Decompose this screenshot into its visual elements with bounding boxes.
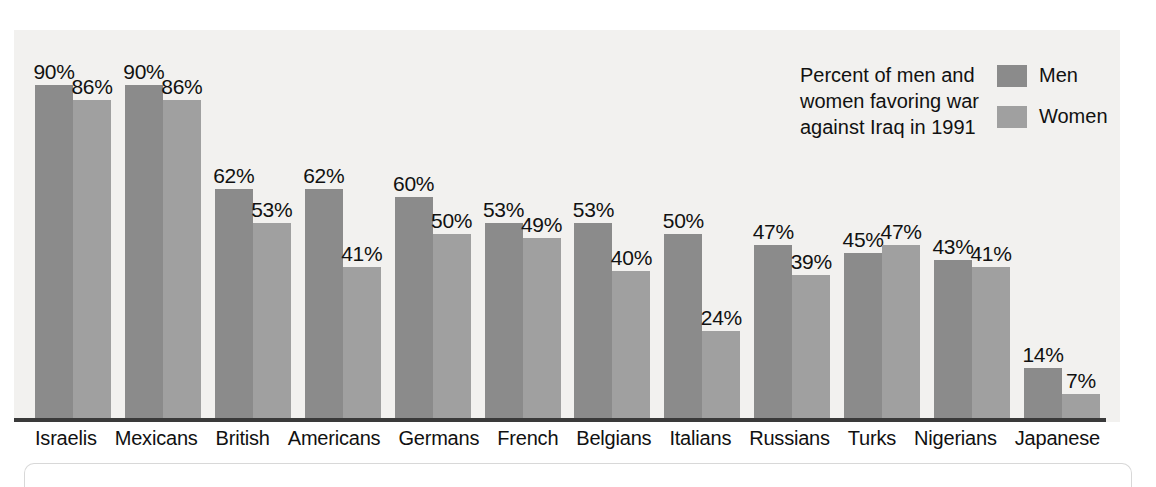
x-axis-label: Americans	[288, 427, 381, 457]
bar-rect-men	[35, 85, 73, 420]
legend-caption: Percent of men and women favoring war ag…	[800, 62, 979, 140]
bar-value-label: 53%	[573, 198, 614, 222]
bar-value-label: 53%	[483, 198, 524, 222]
bar-men[interactable]: 90%	[35, 30, 73, 420]
legend-label-men: Men	[1039, 64, 1078, 87]
bar-men[interactable]: 53%	[485, 30, 523, 420]
bar-value-label: 7%	[1066, 369, 1096, 393]
x-axis-label: Germans	[398, 427, 479, 457]
bar-value-label: 50%	[663, 209, 704, 233]
bar-value-label: 41%	[970, 242, 1011, 266]
bar-value-label: 41%	[341, 242, 382, 266]
bar-rect-men	[664, 234, 702, 420]
bar-rect-women	[253, 223, 291, 420]
bar-rect-men	[754, 245, 792, 420]
bar-rect-men	[574, 223, 612, 420]
x-axis-label: Turks	[848, 427, 896, 457]
x-axis-label: Japanese	[1015, 427, 1100, 457]
bar-group: 62%53%	[215, 30, 291, 420]
legend-swatch-men-icon	[997, 65, 1027, 87]
x-axis-label: Belgians	[576, 427, 651, 457]
bar-rect-women	[612, 271, 650, 420]
bar-rect-men	[125, 85, 163, 420]
legend-key-women: Women	[997, 105, 1108, 128]
bar-value-label: 40%	[611, 246, 652, 270]
bar-rect-women	[433, 234, 471, 420]
bar-group: 90%86%	[125, 30, 201, 420]
bar-rect-women	[73, 100, 111, 420]
bar-men[interactable]: 53%	[574, 30, 612, 420]
bar-men[interactable]: 62%	[305, 30, 343, 420]
x-axis-label: French	[497, 427, 558, 457]
x-axis-label: Italians	[669, 427, 731, 457]
bar-rect-women	[1062, 394, 1100, 420]
bar-value-label: 47%	[881, 220, 922, 244]
bar-women[interactable]: 40%	[612, 30, 650, 420]
bar-rect-men	[1024, 368, 1062, 420]
bar-value-label: 47%	[753, 220, 794, 244]
bar-value-label: 39%	[791, 250, 832, 274]
bar-value-label: 86%	[71, 75, 112, 99]
legend-label-women: Women	[1039, 105, 1108, 128]
bar-value-label: 62%	[213, 164, 254, 188]
bottom-panel	[24, 463, 1132, 487]
bar-group: 60%50%	[395, 30, 471, 420]
x-axis-label: Russians	[749, 427, 830, 457]
bar-women[interactable]: 50%	[433, 30, 471, 420]
bar-rect-women	[523, 238, 561, 420]
bar-group: 50%24%	[664, 30, 740, 420]
bar-group: 53%40%	[574, 30, 650, 420]
bar-men[interactable]: 90%	[125, 30, 163, 420]
bar-value-label: 62%	[303, 164, 344, 188]
bar-value-label: 53%	[251, 198, 292, 222]
bar-group: 62%41%	[305, 30, 381, 420]
legend-caption-line-1: Percent of men and	[800, 62, 979, 88]
bar-value-label: 24%	[701, 306, 742, 330]
bar-women[interactable]: 86%	[73, 30, 111, 420]
bar-value-label: 90%	[123, 60, 164, 84]
legend-keys: Men Women	[997, 62, 1108, 128]
bar-value-label: 45%	[843, 228, 884, 252]
legend-key-men: Men	[997, 64, 1108, 87]
bar-rect-men	[215, 189, 253, 420]
bar-value-label: 86%	[161, 75, 202, 99]
bar-value-label: 60%	[393, 172, 434, 196]
chart-legend: Percent of men and women favoring war ag…	[800, 62, 1108, 140]
bar-group: 90%86%	[35, 30, 111, 420]
bar-women[interactable]: 49%	[523, 30, 561, 420]
x-axis-label: Mexicans	[115, 427, 198, 457]
bar-group: 53%49%	[485, 30, 561, 420]
bar-value-label: 49%	[521, 213, 562, 237]
bar-men[interactable]: 60%	[395, 30, 433, 420]
bar-men[interactable]: 62%	[215, 30, 253, 420]
bar-women[interactable]: 24%	[702, 30, 740, 420]
bar-value-label: 90%	[33, 60, 74, 84]
bar-value-label: 43%	[932, 235, 973, 259]
bar-rect-men	[934, 260, 972, 420]
bar-rect-women	[702, 331, 740, 420]
bar-women[interactable]: 53%	[253, 30, 291, 420]
bar-rect-women	[972, 267, 1010, 420]
bar-rect-women	[163, 100, 201, 420]
x-axis-label: Nigerians	[914, 427, 997, 457]
bar-rect-women	[343, 267, 381, 420]
bar-women[interactable]: 86%	[163, 30, 201, 420]
x-axis-label: Israelis	[35, 427, 97, 457]
bar-men[interactable]: 47%	[754, 30, 792, 420]
bar-men[interactable]: 50%	[664, 30, 702, 420]
bar-rect-men	[844, 253, 882, 420]
bar-rect-women	[882, 245, 920, 420]
bar-rect-women	[792, 275, 830, 420]
legend-caption-line-3: against Iraq in 1991	[800, 114, 979, 140]
bar-rect-men	[395, 197, 433, 420]
bar-value-label: 14%	[1022, 343, 1063, 367]
bar-women[interactable]: 41%	[343, 30, 381, 420]
legend-caption-line-2: women favoring war	[800, 88, 979, 114]
x-axis-label: British	[216, 427, 270, 457]
bar-rect-men	[305, 189, 343, 420]
bar-rect-men	[485, 223, 523, 420]
x-axis-category-labels: IsraelisMexicansBritishAmericansGermansF…	[35, 427, 1100, 457]
x-axis-line	[14, 418, 1106, 422]
bar-value-label: 50%	[431, 209, 472, 233]
